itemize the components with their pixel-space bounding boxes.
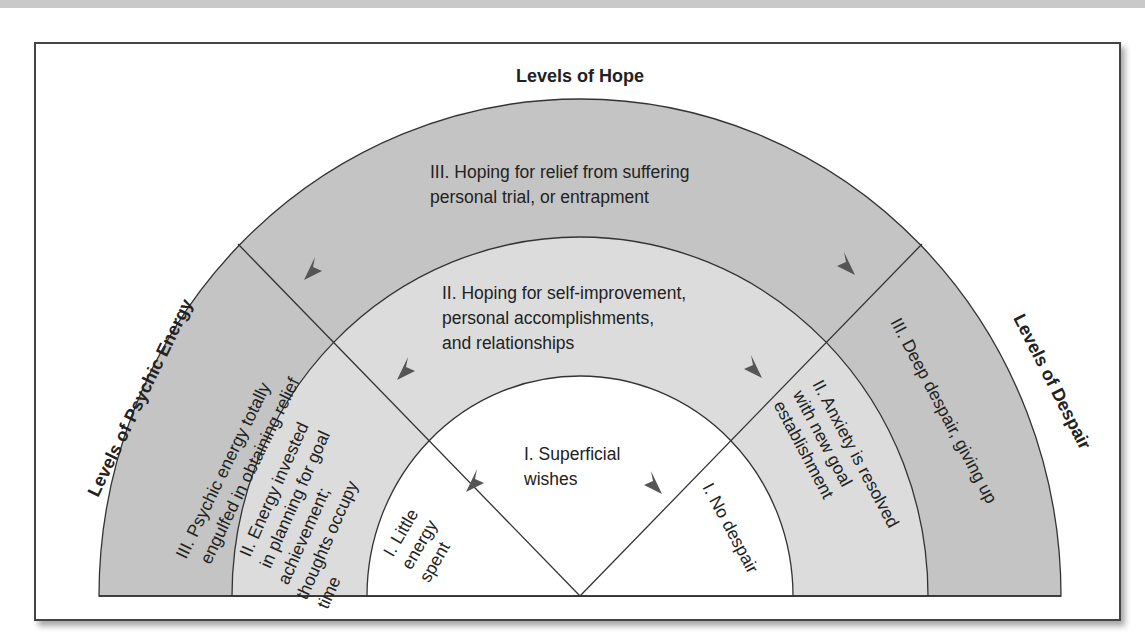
svg-text:II. Hoping for self-improvemen: II. Hoping for self-improvement, xyxy=(442,283,686,303)
svg-text:personal trial, or entrapment: personal trial, or entrapment xyxy=(430,187,649,207)
title-levels-of-hope: Levels of Hope xyxy=(516,66,644,86)
svg-text:wishes: wishes xyxy=(523,469,578,489)
svg-text:and relationships: and relationships xyxy=(442,333,575,353)
svg-text:personal accomplishments,: personal accomplishments, xyxy=(442,308,654,328)
svg-text:I. Superficial: I. Superficial xyxy=(524,444,620,464)
svg-text:III. Hoping for relief from su: III. Hoping for relief from suffering xyxy=(430,162,689,182)
hope-despair-diagram: Levels of Hope Levels of Psychic Energy … xyxy=(0,0,1145,634)
